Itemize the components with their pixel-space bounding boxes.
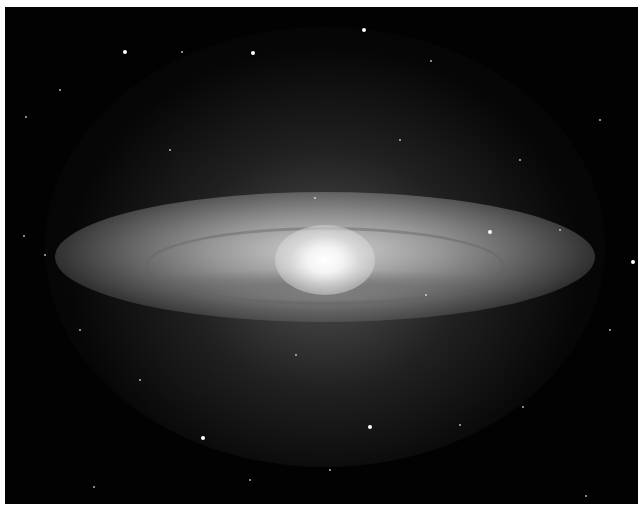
star bbox=[249, 479, 251, 481]
star bbox=[368, 425, 372, 429]
star bbox=[519, 159, 521, 161]
star bbox=[25, 116, 27, 118]
star bbox=[314, 197, 316, 199]
star bbox=[399, 139, 401, 141]
star bbox=[181, 51, 183, 53]
star bbox=[459, 424, 461, 426]
star bbox=[559, 229, 561, 231]
star bbox=[631, 260, 635, 264]
star bbox=[522, 406, 524, 408]
star bbox=[139, 379, 141, 381]
star bbox=[488, 230, 492, 234]
star bbox=[430, 60, 432, 62]
star bbox=[251, 51, 255, 55]
star bbox=[23, 235, 25, 237]
star bbox=[329, 469, 331, 471]
star bbox=[93, 486, 95, 488]
star bbox=[169, 149, 171, 151]
star bbox=[59, 89, 61, 91]
star bbox=[599, 119, 601, 121]
star bbox=[201, 436, 205, 440]
galaxy-photo: edge-on spiral galaxy with bright centra… bbox=[5, 7, 638, 504]
star bbox=[295, 354, 297, 356]
star bbox=[44, 254, 46, 256]
star bbox=[79, 329, 81, 331]
star bbox=[123, 50, 127, 54]
star bbox=[609, 329, 611, 331]
star bbox=[362, 28, 366, 32]
star bbox=[585, 495, 587, 497]
galaxy-core bbox=[275, 225, 375, 295]
star bbox=[425, 294, 427, 296]
